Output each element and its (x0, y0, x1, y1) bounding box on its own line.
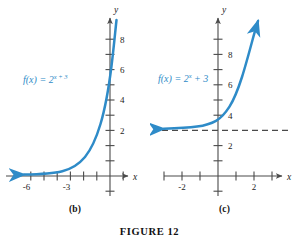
x-axis-label-c: x (286, 172, 292, 182)
figure-12-container: -6 -3 2 4 6 8 x y f(x) = 2x + 3 (0, 0, 299, 245)
function-label-c: f(x) = 2x + 3 (158, 72, 208, 85)
function-label-b-prefix: f(x) = 2 (23, 74, 54, 86)
panel-caption-c: (c) (150, 204, 299, 214)
x-tick-label-c-1: 2 (252, 182, 257, 192)
y-axis-label-b: y (113, 5, 119, 15)
y-tick-label-c-1: 4 (228, 111, 233, 121)
panel-caption-b: (b) (0, 204, 150, 214)
x-tick-label-c-0: -2 (178, 182, 186, 192)
figure-title: FIGURE 12 (0, 226, 299, 237)
graph-panel-c: -2 2 2 4 6 8 x y f(x) = 2x + 3 (150, 0, 299, 200)
function-label-b: f(x) = 2x + 3 (23, 73, 68, 86)
y-tick-label-c-2: 6 (228, 80, 233, 90)
function-label-b-exponent: x + 3 (53, 73, 69, 80)
x-axis-c (164, 172, 282, 181)
graph-panel-b: -6 -3 2 4 6 8 x y f(x) = 2x + 3 (0, 0, 150, 200)
y-tick-label-b-1: 4 (120, 95, 125, 105)
graph-c-svg: -2 2 2 4 6 8 x y f(x) = 2x + 3 (150, 0, 299, 200)
y-tick-label-b-3: 8 (120, 35, 125, 45)
graph-b-svg: -6 -3 2 4 6 8 x y f(x) = 2x + 3 (0, 0, 150, 200)
curve-b (24, 20, 116, 175)
x-tick-label-b-1: -3 (63, 182, 71, 192)
function-label-c-prefix: f(x) = 2 (158, 73, 189, 85)
y-tick-label-c-0: 2 (228, 141, 233, 151)
y-axis-c (214, 18, 223, 196)
y-tick-label-b-2: 6 (120, 65, 125, 75)
function-label-c-suffix: + 3 (192, 73, 209, 84)
x-axis-label-b: x (132, 172, 138, 182)
y-axis-label-c: y (221, 5, 227, 15)
x-tick-label-b-0: -6 (23, 182, 31, 192)
y-tick-label-c-3: 8 (228, 50, 233, 60)
y-tick-label-b-0: 2 (120, 126, 125, 136)
